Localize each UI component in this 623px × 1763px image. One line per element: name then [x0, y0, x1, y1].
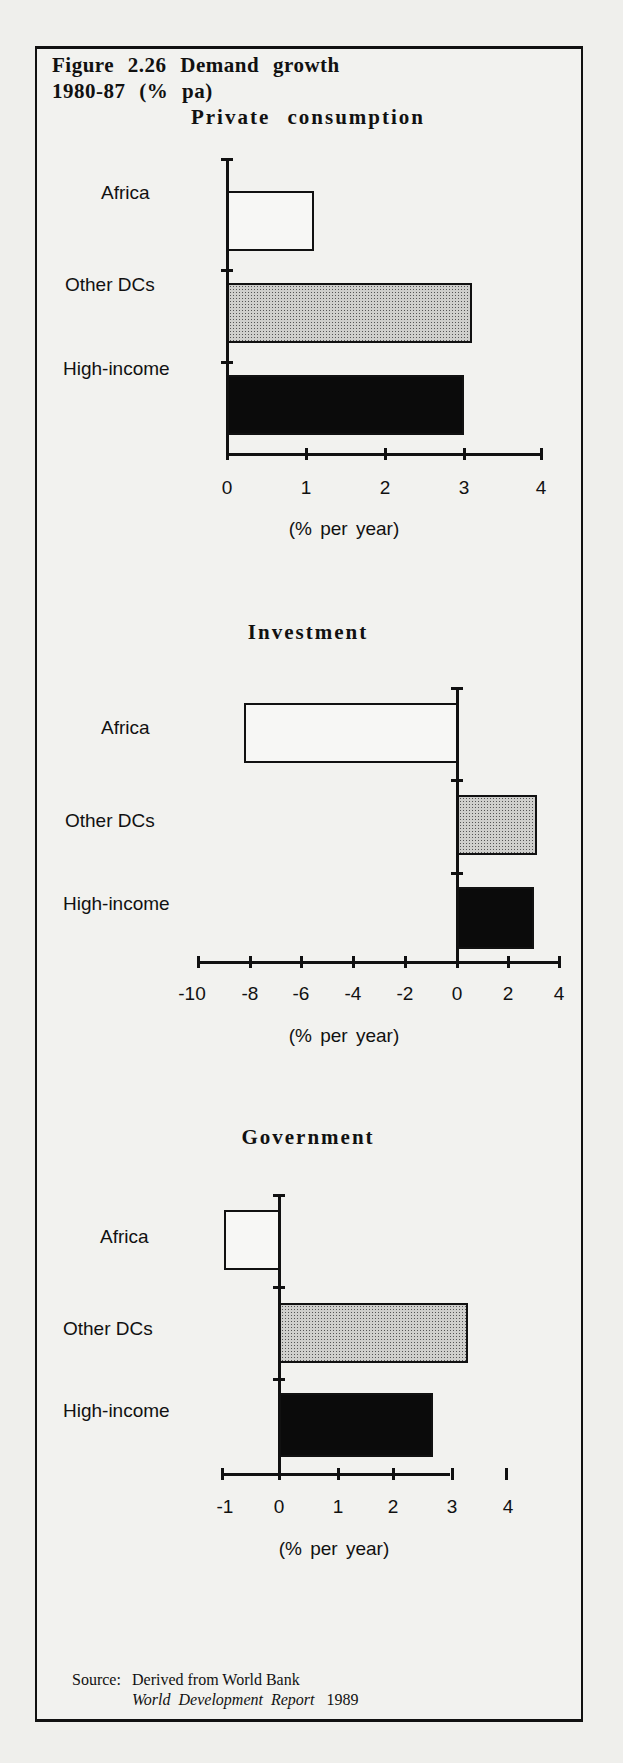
axis-tick [451, 1468, 454, 1480]
category-label-other-dcs: Other DCs [65, 810, 155, 832]
axis-tick [273, 1286, 285, 1289]
chart-title: Private consumption [108, 105, 508, 130]
tick-label: 3 [444, 477, 484, 499]
bar-africa [227, 191, 314, 251]
chart-title: Investment [108, 620, 508, 645]
bar-africa [224, 1210, 280, 1270]
axis-tick [451, 687, 463, 690]
axis-tick [278, 1468, 281, 1480]
tick-label: -6 [281, 983, 321, 1005]
figure-title-line1: Figure 2.26 Demand growth [52, 52, 340, 78]
axis-tick [540, 448, 543, 460]
x-axis-label: (% per year) [244, 1025, 444, 1047]
source-label: Source: [72, 1670, 132, 1690]
axis-tick [384, 448, 387, 460]
bar-high-income [227, 375, 464, 435]
axis-tick [249, 956, 252, 968]
bar-africa [244, 703, 458, 763]
category-label-high-income: High-income [63, 1400, 170, 1422]
tick-label: 3 [432, 1496, 472, 1518]
figure-title: Figure 2.26 Demand growth 1980-87 (% pa) [52, 52, 340, 104]
tick-label: -2 [385, 983, 425, 1005]
axis-tick [451, 872, 463, 875]
axis-tick [300, 956, 303, 968]
x-axis [198, 961, 560, 964]
axis-tick [221, 269, 233, 272]
category-label-africa: Africa [101, 182, 150, 204]
tick-label: -4 [333, 983, 373, 1005]
tick-label: 0 [207, 477, 247, 499]
source-line1: Derived from World Bank [132, 1671, 300, 1688]
axis-tick [352, 956, 355, 968]
bar-high-income [279, 1393, 433, 1457]
source-report-title: World Development Report [132, 1691, 314, 1708]
source-year: 1989 [326, 1691, 358, 1708]
axis-tick [456, 956, 459, 968]
axis-tick [273, 1194, 285, 1197]
axis-tick [505, 1468, 508, 1480]
bar-other-dcs [457, 795, 537, 855]
axis-tick [221, 1468, 224, 1480]
source-note: Source:Derived from World Bank World Dev… [72, 1670, 358, 1710]
axis-tick [404, 956, 407, 968]
tick-label: 4 [521, 477, 561, 499]
category-label-africa: Africa [101, 717, 150, 739]
x-axis [222, 1473, 450, 1476]
category-label-other-dcs: Other DCs [65, 274, 155, 296]
category-label-high-income: High-income [63, 893, 170, 915]
axis-tick [221, 361, 233, 364]
bar-high-income [457, 887, 534, 949]
category-label-africa: Africa [100, 1226, 149, 1248]
tick-label: -10 [172, 983, 212, 1005]
tick-label: 1 [318, 1496, 358, 1518]
axis-tick [392, 1468, 395, 1480]
tick-label: 1 [286, 477, 326, 499]
tick-label: -1 [205, 1496, 245, 1518]
tick-label: -8 [230, 983, 270, 1005]
axis-tick [226, 448, 229, 460]
figure-title-line2: 1980-87 (% pa) [52, 78, 340, 104]
axis-tick [197, 956, 200, 968]
tick-label: 2 [488, 983, 528, 1005]
bar-other-dcs [279, 1303, 468, 1363]
axis-tick [451, 779, 463, 782]
axis-tick [463, 448, 466, 460]
axis-tick [507, 956, 510, 968]
x-axis-label: (% per year) [234, 1538, 434, 1560]
tick-label: 4 [488, 1496, 528, 1518]
tick-label: 0 [437, 983, 477, 1005]
axis-tick [221, 158, 233, 161]
axis-tick [305, 448, 308, 460]
tick-label: 2 [365, 477, 405, 499]
tick-label: 4 [539, 983, 579, 1005]
axis-tick [273, 1378, 285, 1381]
chart-title: Government [108, 1125, 508, 1150]
category-label-other-dcs: Other DCs [63, 1318, 153, 1340]
category-label-high-income: High-income [63, 358, 170, 380]
tick-label: 0 [259, 1496, 299, 1518]
tick-label: 2 [373, 1496, 413, 1518]
x-axis-label: (% per year) [244, 518, 444, 540]
bar-other-dcs [227, 283, 472, 343]
axis-tick [558, 956, 561, 968]
axis-tick [337, 1468, 340, 1480]
